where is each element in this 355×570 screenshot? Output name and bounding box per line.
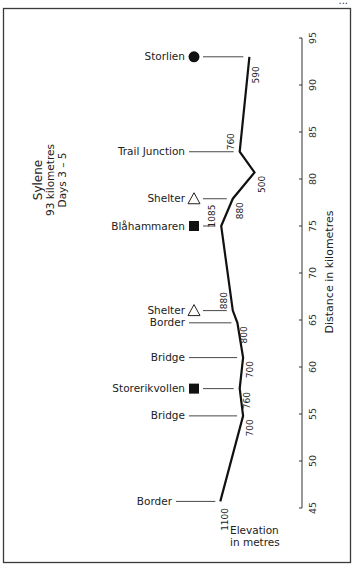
x-axis-label-line1: Elevation [230,524,279,536]
waypoint: Blåhammaren [111,220,199,232]
waypoint: Storerikvollen [112,382,199,394]
waypoint: Bridge [151,351,185,363]
title-block: Sylene 93 kilometres Days 3 – 5 [31,144,68,216]
waypoint-label: Trail Junction [117,145,185,157]
elevation-label: 880 [219,292,229,309]
y-axis-label: Distance in kilometres [323,210,336,333]
waypoint: Shelter [147,192,200,204]
elevation-label: 880 [235,202,245,219]
waypoint: Bridge [151,409,185,421]
town-circle-icon [189,51,200,62]
chart-subtitle-days: Days 3 – 5 [56,153,68,208]
y-tick-label: 90 [307,79,318,91]
shelter-triangle-icon [188,305,200,316]
waypoint-label: Border [137,495,173,507]
y-tick-label: 80 [307,173,318,185]
waypoint-label: Storerikvollen [112,382,185,394]
elevation-label: 800 [239,326,249,343]
waypoint: Border [150,316,186,328]
waypoint-leaders [176,57,243,502]
elevation-label: 1100 [220,508,230,531]
distance-axis: 4550556065707580859095 [299,32,318,514]
elevation-label: 500 [257,176,267,193]
waypoint-label: Blåhammaren [111,220,185,232]
y-tick-label: 60 [307,361,318,373]
y-tick-label: 70 [307,267,318,279]
y-tick-label: 85 [307,126,318,138]
waypoint: Border [137,495,173,507]
waypoint-labels: StorlienTrail JunctionShelterBlåhammaren… [111,50,200,507]
elevation-profile-chart: ... Sylene 93 kilometres Days 3 – 5 4550… [0,0,355,570]
shelter-triangle-icon [188,193,200,204]
waypoint: Shelter [147,304,200,316]
waypoint-label: Shelter [147,304,185,316]
chart-frame [4,9,351,563]
y-tick-label: 55 [307,408,318,420]
y-tick-label: 50 [307,455,318,467]
waypoint-label: Storlien [145,50,185,62]
hut-square-icon [189,384,199,394]
elevation-label: 590 [251,66,261,83]
chart-title: Sylene [31,160,45,200]
y-tick-label: 75 [307,220,318,232]
waypoint: Trail Junction [117,145,185,157]
y-tick-label: 65 [307,314,318,326]
elevation-label: 760 [242,392,252,409]
chart-subtitle-distance: 93 kilometres [44,144,56,216]
x-axis-label-line2: in metres [230,536,280,548]
elevation-label: 1085 [207,205,217,228]
waypoint-label: Bridge [151,351,185,363]
y-tick-label: 95 [307,32,318,44]
elevation-label: 760 [226,133,236,150]
elevation-labels: 59076050088010858808007007607001100 [207,66,266,531]
elevation-label: 700 [245,419,255,436]
waypoint: Storlien [145,50,200,62]
y-tick-label: 45 [307,502,318,514]
waypoint-label: Shelter [147,192,185,204]
elevation-label: 700 [245,361,255,378]
cut-off-header-text: ... [338,0,348,6]
waypoint-label: Border [150,316,186,328]
waypoint-label: Bridge [151,409,185,421]
hut-square-icon [189,221,199,231]
